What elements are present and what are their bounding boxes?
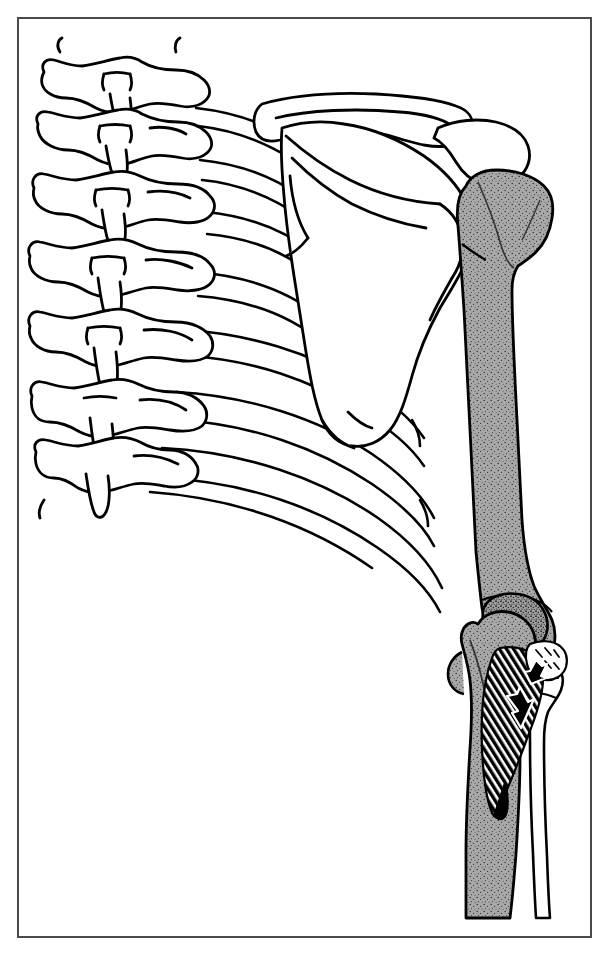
vertebra-7: [35, 437, 198, 518]
rib-8: [150, 492, 372, 568]
figure-root: Posterior view of shoulder girdle, humer…: [0, 0, 611, 958]
olecranon-knob: [448, 652, 464, 694]
thoracic-vertebrae: [29, 38, 215, 518]
humerus-outline: [457, 170, 555, 663]
anatomical-illustration-canvas: [0, 0, 611, 958]
scapula: [281, 122, 473, 448]
humerus: [457, 170, 555, 663]
rib-connector-4: [412, 420, 420, 446]
